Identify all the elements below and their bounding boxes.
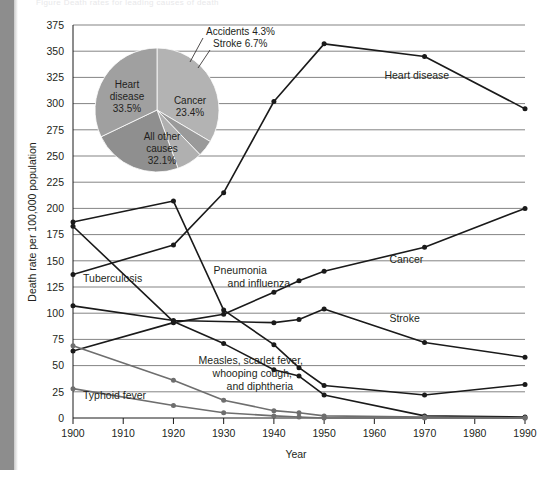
data-point <box>322 392 327 397</box>
y-tick-label: 375 <box>46 19 64 31</box>
pie-callout-stroke: Stroke 6.7% <box>213 38 268 49</box>
data-point <box>171 319 176 324</box>
data-point <box>422 245 427 250</box>
pie-slice-label: Cancer23.4% <box>174 95 207 118</box>
y-tick-label: 0 <box>58 412 64 424</box>
data-point <box>297 365 302 370</box>
y-tick-label: 50 <box>52 359 64 371</box>
data-point <box>422 416 427 421</box>
data-point <box>297 414 302 419</box>
data-point <box>271 99 276 104</box>
x-tick-label: 1940 <box>262 427 286 439</box>
series-label: Typhoid fever <box>83 389 147 401</box>
data-point <box>422 392 427 397</box>
x-axis-ticks: 1900191019201930194019501960197019801990 <box>61 418 537 439</box>
data-point <box>221 308 226 313</box>
data-point <box>171 403 176 408</box>
x-tick-label: 1950 <box>312 427 336 439</box>
death-rate-line-chart: 0255075100125150175200225250275300325350… <box>0 0 541 484</box>
x-tick-label: 1990 <box>513 427 537 439</box>
y-tick-label: 300 <box>46 97 64 109</box>
data-point <box>322 41 327 46</box>
pie-callout-accidents: Accidents 4.3% <box>206 26 275 37</box>
y-tick-label: 150 <box>46 255 64 267</box>
series-label: Pneumoniaand influenza <box>214 264 291 289</box>
data-point <box>271 290 276 295</box>
data-point <box>221 341 226 346</box>
y-tick-label: 75 <box>52 333 64 345</box>
y-tick-label: 25 <box>52 386 64 398</box>
data-point <box>523 416 528 421</box>
data-point <box>322 307 327 312</box>
x-tick-label: 1910 <box>112 427 136 439</box>
series-label: Measles, scarlet fever,whooping cough,an… <box>199 354 303 392</box>
y-tick-label: 175 <box>46 228 64 240</box>
data-point <box>71 343 76 348</box>
data-point <box>297 317 302 322</box>
y-tick-label: 125 <box>46 281 64 293</box>
series-label: Stroke <box>389 312 420 324</box>
data-point <box>422 54 427 59</box>
data-point <box>71 348 76 353</box>
data-point <box>71 224 76 229</box>
data-point <box>523 355 528 360</box>
data-point <box>71 386 76 391</box>
data-point <box>221 398 226 403</box>
figure-root: Figure Death rates for leading causes of… <box>0 0 541 484</box>
y-tick-label: 325 <box>46 71 64 83</box>
data-point <box>322 383 327 388</box>
y-tick-label: 200 <box>46 202 64 214</box>
y-tick-label: 275 <box>46 124 64 136</box>
series-label: Tuberculosis <box>83 272 142 284</box>
x-tick-label: 1920 <box>162 427 186 439</box>
y-axis-ticks: 0255075100125150175200225250275300325350… <box>46 19 64 424</box>
x-tick-label: 1960 <box>363 427 387 439</box>
data-point <box>523 206 528 211</box>
y-axis-title: Death rate per 100,000 population <box>26 142 38 302</box>
series-label: Heart disease <box>384 69 449 81</box>
pie-leader-stroke <box>198 50 210 68</box>
y-tick-label: 225 <box>46 176 64 188</box>
x-tick-label: 1900 <box>61 427 85 439</box>
data-point <box>271 320 276 325</box>
y-tick-label: 250 <box>46 150 64 162</box>
data-point <box>171 243 176 248</box>
series-label: Cancer <box>389 253 423 265</box>
data-point <box>271 408 276 413</box>
x-axis-title: Year <box>285 448 307 460</box>
data-point <box>171 199 176 204</box>
data-point <box>322 416 327 421</box>
x-tick-label: 1970 <box>413 427 437 439</box>
data-point <box>297 278 302 283</box>
data-point <box>523 106 528 111</box>
data-point <box>221 190 226 195</box>
data-point <box>422 340 427 345</box>
x-tick-label: 1980 <box>463 427 487 439</box>
data-point <box>523 382 528 387</box>
data-point <box>71 303 76 308</box>
data-point <box>297 374 302 379</box>
x-tick-label: 1930 <box>212 427 236 439</box>
data-point <box>71 272 76 277</box>
data-point <box>271 413 276 418</box>
data-point <box>322 269 327 274</box>
y-tick-label: 100 <box>46 307 64 319</box>
data-point <box>221 410 226 415</box>
data-point <box>271 342 276 347</box>
y-tick-label: 350 <box>46 45 64 57</box>
data-point <box>171 378 176 383</box>
pie-slice-label: All othercauses32.1% <box>144 131 181 166</box>
pie-leader-accidents <box>190 38 203 62</box>
